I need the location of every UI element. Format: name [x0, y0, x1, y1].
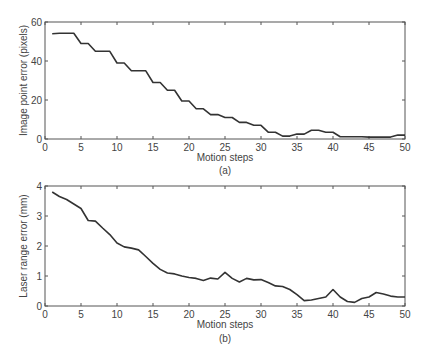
axes-box [45, 22, 405, 139]
axes-box [45, 186, 405, 306]
x-tick-label: 0 [42, 309, 48, 320]
data-line [52, 33, 405, 137]
x-tick-label: 0 [42, 142, 48, 153]
y-axis-label: Image point error (pixels) [18, 25, 29, 136]
chart-panel-b: 0510152025303540455001234Motion steps(b)… [18, 181, 411, 344]
panel-caption: (b) [219, 333, 231, 344]
y-tick-label: 4 [36, 181, 42, 192]
x-tick-label: 20 [183, 309, 195, 320]
x-tick-label: 50 [399, 142, 411, 153]
x-tick-label: 35 [291, 309, 303, 320]
y-tick-label: 20 [31, 95, 43, 106]
chart-panel-a: 051015202530354045500204060Motion steps(… [18, 17, 411, 176]
x-tick-label: 40 [327, 142, 339, 153]
y-tick-label: 3 [36, 211, 42, 222]
x-tick-label: 15 [147, 142, 159, 153]
x-tick-label: 10 [111, 142, 123, 153]
data-line [52, 192, 405, 302]
x-tick-label: 50 [399, 309, 411, 320]
x-tick-label: 45 [363, 142, 375, 153]
y-tick-label: 60 [31, 17, 43, 28]
x-tick-label: 15 [147, 309, 159, 320]
x-tick-label: 5 [78, 142, 84, 153]
panel-caption: (a) [219, 165, 231, 176]
x-tick-label: 30 [255, 142, 267, 153]
x-tick-label: 45 [363, 309, 375, 320]
x-tick-label: 35 [291, 142, 303, 153]
y-tick-label: 0 [36, 134, 42, 145]
y-tick-label: 1 [36, 271, 42, 282]
figure: 051015202530354045500204060Motion steps(… [0, 0, 435, 350]
x-tick-label: 10 [111, 309, 123, 320]
x-tick-label: 40 [327, 309, 339, 320]
x-tick-label: 20 [183, 142, 195, 153]
y-tick-label: 40 [31, 56, 43, 67]
x-axis-label: Motion steps [197, 319, 254, 330]
x-tick-label: 5 [78, 309, 84, 320]
y-axis-label: Laser range error (mm) [18, 194, 29, 297]
x-tick-label: 30 [255, 309, 267, 320]
y-tick-label: 0 [36, 301, 42, 312]
y-tick-label: 2 [36, 241, 42, 252]
x-axis-label: Motion steps [197, 152, 254, 163]
